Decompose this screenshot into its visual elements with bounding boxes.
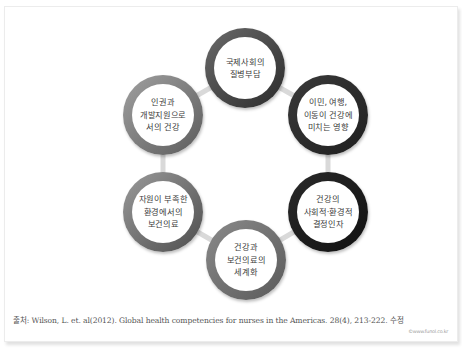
node-migration-travel-health: 이민, 여행, 이동이 건강에 미치는 영향 bbox=[288, 75, 368, 155]
node-health-as-human-right: 인권과 개발지원으로 서의 건강 bbox=[123, 75, 203, 155]
node-low-resource-healthcare: 자원이 부족한 환경에서의 보건의료 bbox=[123, 172, 203, 252]
node-globalization-of-health: 건강과 보건의료의 세계화 bbox=[206, 220, 286, 300]
node-label: 인권과 개발지원으로 서의 건강 bbox=[140, 96, 186, 134]
node-social-environmental-determinants: 건강의 사회적·환경적 결정인자 bbox=[288, 172, 368, 252]
node-label: 자원이 부족한 환경에서의 보건의료 bbox=[139, 193, 188, 231]
node-label: 국제사회의 질병부담 bbox=[226, 56, 265, 81]
watermark: ©www.funol.co.kr bbox=[408, 329, 448, 334]
node-label: 이민, 여행, 이동이 건강에 미치는 영향 bbox=[304, 96, 353, 134]
node-label: 건강과 보건의료의 세계화 bbox=[227, 241, 266, 279]
node-label: 건강의 사회적·환경적 결정인자 bbox=[304, 193, 353, 231]
node-global-disease-burden: 국제사회의 질병부담 bbox=[205, 28, 285, 108]
source-caption: 출처: Wilson, L. et. al(2012). Global heal… bbox=[13, 314, 404, 325]
